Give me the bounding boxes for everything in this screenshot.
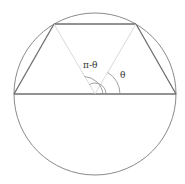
theta-arc xyxy=(108,72,120,94)
angle-label-theta: θ xyxy=(120,70,125,80)
trapezoid-left-leg xyxy=(14,24,54,94)
radius-right xyxy=(95,24,136,94)
trapezoid-right-leg xyxy=(136,24,176,94)
radius-left xyxy=(54,24,95,94)
diagram-svg: π-θ θ xyxy=(0,0,185,184)
diagram-canvas: π-θ θ xyxy=(0,0,185,184)
angle-label-pi-minus-theta: π-θ xyxy=(83,60,97,70)
